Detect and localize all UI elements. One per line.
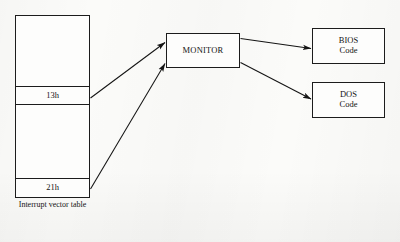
ivt-row-13h-label: 13h bbox=[46, 91, 59, 101]
ivt-row-21h-label: 21h bbox=[46, 183, 59, 193]
ivt-caption-line-1: Interrupt vector bbox=[19, 200, 69, 209]
monitor-label: MONITOR bbox=[183, 46, 224, 56]
diagram-canvas: 13h 21h Interrupt vector table MONITOR B… bbox=[0, 0, 400, 242]
dos-label-line-2: Code bbox=[340, 100, 358, 110]
ivt-row-21h: 21h bbox=[16, 178, 89, 197]
edge-13h-to-monitor bbox=[91, 43, 166, 99]
interrupt-vector-table-caption: Interrupt vector table bbox=[4, 200, 101, 210]
dos-code-box: DOS Code bbox=[312, 82, 385, 118]
monitor-box: MONITOR bbox=[166, 33, 240, 68]
ivt-empty-region-top bbox=[16, 16, 89, 86]
edge-21h-to-monitor bbox=[91, 64, 166, 190]
ivt-empty-region-middle bbox=[16, 105, 89, 178]
bios-label-line-2: Code bbox=[340, 46, 358, 56]
ivt-caption-line-2: table bbox=[71, 200, 87, 209]
edge-monitor-to-dos bbox=[241, 63, 312, 100]
interrupt-vector-table: 13h 21h bbox=[15, 15, 90, 198]
bios-code-box: BIOS Code bbox=[312, 28, 385, 64]
edge-monitor-to-bios bbox=[241, 39, 312, 49]
ivt-row-13h: 13h bbox=[16, 86, 89, 105]
